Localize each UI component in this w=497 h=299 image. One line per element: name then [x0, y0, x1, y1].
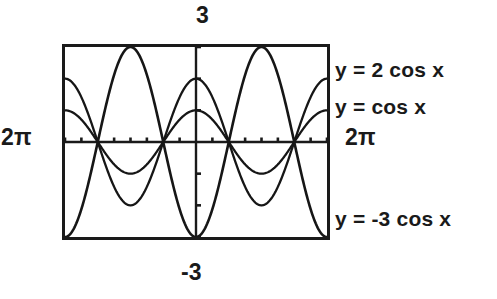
curve-label-two-cos-x: y = 2 cos x	[335, 58, 444, 82]
x-min-label: 2π	[1, 124, 32, 151]
plot-canvas	[65, 47, 327, 237]
y-max-label: 3	[196, 2, 209, 29]
plot-frame	[62, 44, 330, 240]
curve-label-cos-x: y = cos x	[335, 95, 426, 119]
axes-group	[65, 47, 327, 237]
x-max-label: 2π	[345, 124, 376, 151]
calculator-graph-figure: 3 2π -3 2π y = 2 cos x y = cos x y = -3 …	[0, 0, 497, 299]
y-min-label: -3	[181, 259, 202, 286]
curve-label-negative-three-cos-x: y = -3 cos x	[335, 207, 451, 231]
